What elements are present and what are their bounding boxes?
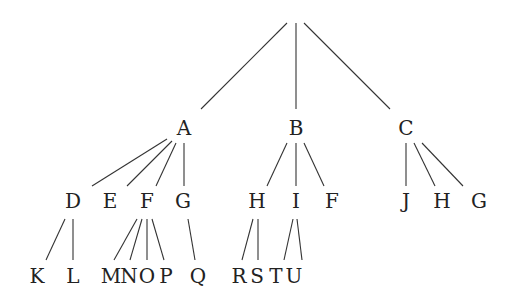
node-U: U <box>286 266 303 286</box>
node-F2: F <box>325 191 339 211</box>
edge-I-T <box>284 219 293 260</box>
edge-C-H2 <box>414 143 435 186</box>
edge-B-F2 <box>304 143 324 186</box>
edge-A-D <box>92 139 167 186</box>
edge-C-G2 <box>422 143 463 186</box>
node-F1: F <box>140 191 154 211</box>
node-H2: H <box>433 191 450 211</box>
node-R: R <box>231 266 246 286</box>
node-J: J <box>402 191 410 211</box>
edge-I-U <box>297 219 302 260</box>
node-L: L <box>66 266 79 286</box>
edge-A-F1 <box>156 143 176 186</box>
node-M: M <box>101 266 121 286</box>
edge-H1-R <box>242 219 253 260</box>
node-I: I <box>292 191 300 211</box>
node-C: C <box>398 118 413 138</box>
edge-A-E <box>127 141 172 186</box>
node-Q: Q <box>190 266 206 286</box>
node-A: A <box>177 118 191 138</box>
edge-G1-Q <box>188 219 195 260</box>
edge-F1-P <box>152 219 164 260</box>
node-S: S <box>250 266 264 286</box>
tree-edges <box>0 0 513 305</box>
node-P: P <box>159 266 172 286</box>
node-O: O <box>139 266 155 286</box>
edge-root-C <box>304 23 390 109</box>
node-B: B <box>289 118 304 138</box>
node-G2: G <box>471 191 487 211</box>
edge-F1-M <box>114 219 137 260</box>
node-G1: G <box>175 191 191 211</box>
tree-diagram: ABCDEFGHIFJHGKLMNOPQRSTU <box>0 0 513 305</box>
node-H1: H <box>248 191 265 211</box>
edge-B-H1 <box>267 143 287 186</box>
node-N: N <box>120 266 138 286</box>
node-K: K <box>30 266 45 286</box>
edge-F1-N <box>130 219 142 260</box>
edge-D-K <box>46 219 65 260</box>
node-T: T <box>269 266 282 286</box>
node-D: D <box>65 191 81 211</box>
node-E: E <box>103 191 118 211</box>
edge-root-A <box>201 23 287 109</box>
